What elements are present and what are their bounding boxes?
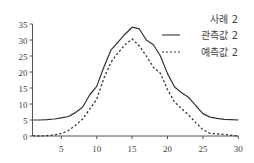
- x-tick-label: 20: [163, 144, 173, 154]
- y-tick-label: 5: [23, 116, 28, 126]
- x-tick-label: 10: [92, 144, 102, 154]
- y-tick-label: 10: [19, 100, 29, 110]
- y-tick-label: 30: [19, 36, 29, 46]
- y-tick-label: 35: [19, 20, 29, 30]
- x-tick-label: 15: [128, 144, 138, 154]
- legend-title: 사례 2: [210, 14, 238, 25]
- x-tick-label: 25: [198, 144, 208, 154]
- y-tick-label: 0: [23, 132, 28, 142]
- series-lines: [33, 27, 238, 136]
- y-tick-label: 15: [19, 84, 29, 94]
- legend-label-observed: 관측값 2: [201, 30, 238, 41]
- y-tick-label: 20: [19, 68, 29, 78]
- line-chart: 0510152025303551015202530 사례 2 관측값 2 예측값…: [0, 0, 254, 163]
- x-tick-label: 5: [59, 144, 64, 154]
- x-tick-label: 30: [234, 144, 244, 154]
- y-tick-label: 25: [19, 52, 29, 62]
- legend-label-predicted: 예측값 2: [201, 47, 238, 58]
- legend: 사례 2 관측값 2 예측값 2: [162, 14, 238, 58]
- observed-line: [33, 27, 238, 120]
